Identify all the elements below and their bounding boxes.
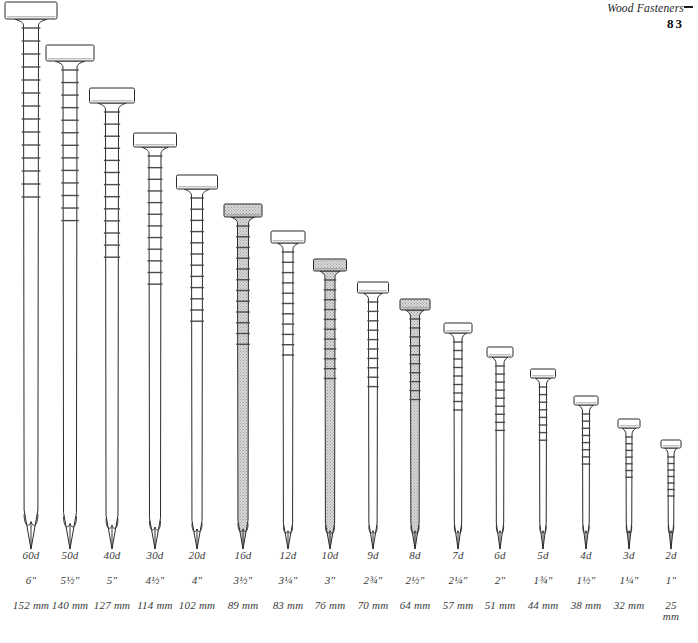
nail-30d [134,133,177,549]
nail-4d [574,396,598,549]
nail-head [444,323,472,333]
nail-9d [358,282,389,549]
nail-illustration-plate [0,0,698,560]
nail-3d [618,419,640,549]
nail-shank [535,378,551,549]
nail-head [487,347,513,357]
nail-head [531,369,556,378]
nail-shank [492,357,508,549]
nail-6d [487,347,513,549]
nail-head [661,440,681,448]
nail-shank [98,103,126,549]
nail-head [400,299,430,310]
nail-12d [271,231,305,549]
nail-head [314,259,347,271]
nail-40d [90,88,135,549]
nail-7d [444,323,472,549]
nail-head [618,419,640,428]
nail-shank [277,243,298,549]
nail-shank [55,61,85,549]
nail-shank [579,405,594,549]
caption-millimeters: 25 mm [639,600,698,622]
nail-10d [314,259,347,549]
nail-2d [661,440,681,549]
nail-shank [142,147,169,549]
nail-diagram-svg [0,0,698,560]
nail-shank [363,293,382,549]
nail-size-chart-page: Wood Fasteners 83 60d6"152 mm50d5½"140 m… [0,0,698,643]
nail-head [574,396,598,405]
nail-8d [400,299,430,549]
nail-head [358,282,389,293]
nail-caption-2d: 2d1"25 mm [639,550,698,622]
caption-row-group: 60d6"152 mm50d5½"140 mm40d5"127 mm30d4½"… [0,536,698,643]
nail-16d [224,204,262,549]
nail-5d [531,369,556,549]
nail-20d [177,175,218,549]
nail-50d [46,45,94,549]
nail-shank [231,217,255,549]
nail-shank [15,19,47,549]
caption-inches: 1" [639,575,698,586]
nail-shank [320,271,340,549]
nail-shank [449,333,466,549]
caption-penny-size: 2d [639,550,698,561]
nail-60d [5,2,57,549]
